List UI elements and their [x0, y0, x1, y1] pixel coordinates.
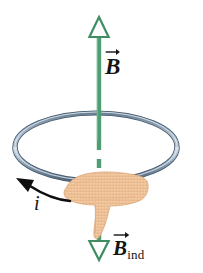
field-arrowhead-down [89, 241, 108, 260]
hand-shape [64, 172, 148, 239]
bind-vector-stack: Bind [113, 230, 144, 259]
b-field-symbol: B [105, 47, 121, 78]
b-induced-label: Bind [113, 230, 144, 259]
b-vector-stack: B [105, 47, 121, 78]
b-field-label: B [105, 47, 121, 78]
field-axis-upper [97, 30, 99, 141]
current-direction-arrow [16, 178, 70, 201]
b-induced-symbol: B [113, 236, 127, 260]
physics-diagram-svg [0, 0, 203, 273]
b-induced-symbol-group: Bind [113, 230, 144, 259]
b-induced-subscript: ind [127, 247, 144, 262]
current-label: i [34, 193, 40, 213]
field-arrowhead-up [89, 17, 108, 37]
figure-canvas: B Bind i [0, 0, 203, 273]
